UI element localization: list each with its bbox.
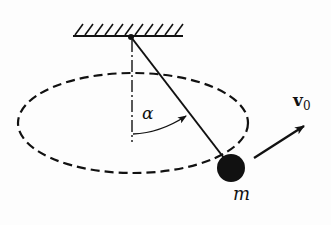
ceiling-support — [73, 24, 183, 36]
bob-mass — [217, 154, 245, 182]
pendulum-string — [131, 37, 224, 158]
velocity-arrow — [254, 126, 304, 158]
angle-arc — [133, 116, 186, 134]
conical-pendulum-diagram: α v0 m — [0, 0, 331, 225]
velocity-label: v0 — [293, 90, 311, 113]
mass-label: m — [233, 183, 250, 204]
velocity-subscript: 0 — [303, 99, 311, 113]
orbit-path — [18, 73, 248, 173]
angle-label: α — [142, 103, 153, 123]
pivot-point — [128, 34, 134, 40]
velocity-symbol: v — [293, 90, 303, 110]
diagram-canvas — [0, 0, 331, 225]
